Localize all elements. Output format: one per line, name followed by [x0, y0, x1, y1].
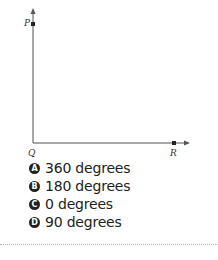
label-r: R	[170, 148, 177, 158]
option-b-text: 180 degrees	[45, 178, 130, 194]
option-c[interactable]: C 0 degrees	[29, 195, 130, 213]
option-b-badge: B	[29, 181, 40, 192]
point-p	[31, 22, 35, 26]
option-a-text: 360 degrees	[45, 160, 130, 176]
dotted-divider	[0, 244, 218, 245]
option-c-badge: C	[29, 199, 40, 210]
point-r	[172, 141, 176, 145]
arrowhead-up-icon	[31, 8, 36, 14]
option-a-badge: A	[29, 163, 40, 174]
option-c-text: 0 degrees	[45, 196, 113, 212]
option-a[interactable]: A 360 degrees	[29, 159, 130, 177]
label-q: Q	[28, 148, 35, 158]
answer-options: A 360 degrees B 180 degrees C 0 degrees …	[29, 159, 130, 231]
angle-diagram	[0, 0, 218, 160]
option-d[interactable]: D 90 degrees	[29, 213, 130, 231]
arrowhead-right-icon	[184, 141, 190, 146]
option-b[interactable]: B 180 degrees	[29, 177, 130, 195]
option-d-text: 90 degrees	[45, 214, 122, 230]
label-p: P	[24, 18, 30, 28]
option-d-badge: D	[29, 217, 40, 228]
